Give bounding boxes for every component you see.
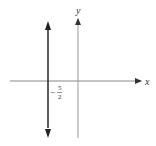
coordinate-plane: x y − 5 2 (0, 0, 156, 146)
line-arrow-up-icon (45, 21, 51, 30)
fraction-denominator: 2 (58, 93, 62, 101)
x-axis-label: x (144, 76, 150, 87)
line-arrow-down-icon (45, 129, 51, 138)
minus-sign: − (50, 87, 55, 97)
fraction-numerator: 5 (58, 84, 62, 92)
y-axis-label: y (75, 5, 81, 16)
